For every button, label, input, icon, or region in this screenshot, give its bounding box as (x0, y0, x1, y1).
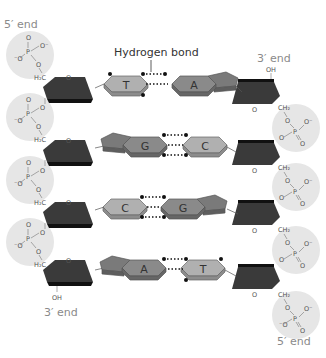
svg-text:OH: OH (266, 66, 276, 74)
svg-text:O: O (40, 229, 45, 237)
svg-text:CH₂: CH₂ (278, 291, 290, 299)
hydrogen-bond-callout: Hydrogen bond (114, 46, 199, 72)
svg-text:O: O (40, 104, 45, 112)
svg-text:O: O (252, 106, 257, 114)
svg-text:O: O (300, 200, 305, 208)
svg-text:⁻O: ⁻O (14, 55, 23, 63)
svg-text:P: P (26, 48, 30, 56)
sugar (232, 264, 280, 289)
svg-text:O: O (66, 74, 71, 82)
svg-text:P: P (293, 128, 297, 136)
svg-text:C: C (201, 140, 209, 153)
svg-text:O: O (285, 117, 290, 125)
svg-text:P: P (26, 173, 30, 181)
svg-text:O: O (26, 96, 31, 104)
svg-text:O: O (252, 291, 257, 299)
base-guanine (161, 195, 227, 219)
svg-text:O: O (66, 199, 71, 207)
svg-text:O⁻: O⁻ (304, 240, 313, 248)
svg-text:O: O (300, 140, 305, 148)
svg-text:P: P (26, 110, 30, 118)
svg-text:P: P (293, 250, 297, 258)
svg-text:O: O (36, 186, 41, 194)
svg-text:O: O (279, 134, 284, 142)
svg-text:O: O (300, 262, 305, 270)
svg-text:O: O (66, 257, 71, 265)
svg-text:T: T (122, 79, 130, 92)
svg-text:O: O (285, 239, 290, 247)
base-adenine (172, 72, 238, 96)
svg-text:O⁻: O⁻ (304, 118, 313, 126)
dna-diagram: O P O⁻ ⁻O O H₂C O P O ⁻O O H₂C O (0, 0, 326, 358)
svg-text:H₂C: H₂C (34, 261, 46, 269)
svg-text:O: O (40, 167, 45, 175)
svg-text:O: O (26, 159, 31, 167)
svg-text:O: O (36, 248, 41, 256)
svg-text:A: A (140, 263, 148, 276)
svg-text:O⁻: O⁻ (304, 178, 313, 186)
hydrogen-bond-label: Hydrogen bond (114, 46, 199, 59)
svg-text:O: O (285, 304, 290, 312)
svg-text:G: G (141, 140, 150, 153)
left-strand-bottom-label: 3′ end (44, 306, 78, 319)
svg-text:O: O (285, 177, 290, 185)
sugar (232, 200, 280, 225)
svg-text:⁻O: ⁻O (279, 321, 288, 329)
svg-text:P: P (293, 315, 297, 323)
base-adenine (100, 256, 166, 280)
svg-text:O: O (26, 34, 31, 42)
svg-text:O⁻: O⁻ (40, 42, 49, 50)
svg-text:O: O (36, 61, 41, 69)
svg-text:OH: OH (52, 294, 62, 302)
left-strand-top-label: 5′ end (4, 18, 38, 31)
svg-text:O: O (279, 194, 284, 202)
svg-text:H₂C: H₂C (34, 199, 46, 207)
svg-text:G: G (179, 202, 188, 215)
base-pair-4: A T (95, 256, 236, 282)
svg-text:P: P (26, 235, 30, 243)
svg-text:CH₂: CH₂ (278, 164, 290, 172)
svg-text:H₂C: H₂C (34, 136, 46, 144)
base-pair-1: T A (95, 72, 242, 97)
svg-text:O⁻: O⁻ (304, 305, 313, 313)
svg-text:⁻O: ⁻O (14, 180, 23, 188)
svg-text:CH₂: CH₂ (278, 226, 290, 234)
svg-text:C: C (121, 202, 129, 215)
svg-text:O: O (26, 221, 31, 229)
svg-text:A: A (190, 79, 198, 92)
sugar (232, 79, 280, 104)
svg-text:P: P (293, 188, 297, 196)
base-pair-3: C G (95, 195, 238, 219)
svg-text:H₂C: H₂C (34, 74, 46, 82)
svg-text:O: O (300, 327, 305, 335)
base-guanine (101, 133, 167, 157)
svg-text:⁻O: ⁻O (14, 242, 23, 250)
svg-text:T: T (199, 263, 207, 276)
right-strand-top-label: 3′ end (257, 52, 291, 65)
base-pair-2: G C (95, 133, 236, 157)
svg-text:O: O (252, 167, 257, 175)
svg-text:O: O (36, 123, 41, 131)
svg-text:⁻O: ⁻O (14, 117, 23, 125)
svg-text:O: O (66, 137, 71, 145)
sugar (232, 140, 280, 165)
svg-text:O: O (279, 256, 284, 264)
svg-text:CH₂: CH₂ (278, 104, 290, 112)
svg-text:O: O (252, 227, 257, 235)
right-strand-bottom-label: 5′ end (277, 335, 311, 348)
